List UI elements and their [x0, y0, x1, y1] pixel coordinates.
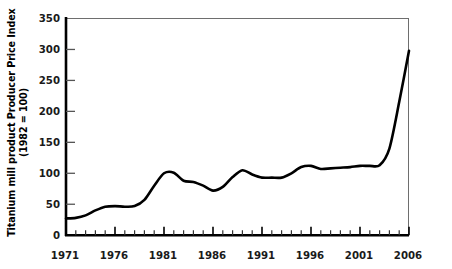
x-tick-label-1981: 1981: [141, 250, 185, 261]
y-tick-label-300: 300: [30, 44, 60, 55]
x-tick-label-1976: 1976: [92, 250, 136, 261]
y-tick-label-150: 150: [30, 137, 60, 148]
titanium-ppi-line-chart: Titanium mill product Producer Price Ind…: [0, 0, 452, 269]
y-tick-label-200: 200: [30, 106, 60, 117]
y-tick-label-0: 0: [30, 230, 60, 241]
x-tick-label-1971: 1971: [43, 250, 87, 261]
y-axis-title: Titanium mill product Producer Price Ind…: [0, 0, 34, 245]
y-tick-label-250: 250: [30, 75, 60, 86]
y-axis-title-line1: Titanium mill product Producer Price Ind…: [5, 8, 16, 237]
x-tick-label-2006: 2006: [386, 250, 430, 261]
y-axis-title-line2: (1982 = 100): [17, 8, 29, 237]
y-tick-label-50: 50: [30, 199, 60, 210]
x-tick-label-2001: 2001: [337, 250, 381, 261]
x-tick-label-1996: 1996: [288, 250, 332, 261]
y-tick-label-350: 350: [30, 13, 60, 24]
y-tick-label-100: 100: [30, 168, 60, 179]
plot-area: [0, 0, 452, 269]
data-series-line: [66, 51, 409, 219]
x-tick-label-1986: 1986: [190, 250, 234, 261]
x-tick-label-1991: 1991: [239, 250, 283, 261]
y-axis-ticks: [66, 49, 75, 204]
